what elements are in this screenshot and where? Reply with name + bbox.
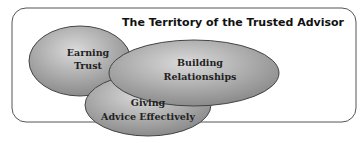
label-earning: Earning xyxy=(67,47,110,58)
label-relationships: Relationships xyxy=(164,71,237,82)
trusted-advisor-diagram: The Territory of the Trusted Advisor Ear… xyxy=(0,0,362,143)
label-giving: Giving xyxy=(131,97,166,108)
label-trust: Trust xyxy=(74,60,103,71)
diagram-title: The Territory of the Trusted Advisor xyxy=(122,16,344,29)
label-building: Building xyxy=(177,57,223,68)
label-advice-effectively: Advice Effectively xyxy=(100,111,195,122)
